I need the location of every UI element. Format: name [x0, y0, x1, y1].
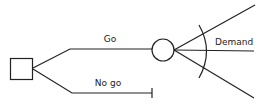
decision-node-square	[11, 59, 33, 80]
chance-node-circle	[152, 39, 174, 61]
demand-outcome-low-line	[174, 50, 254, 98]
demand-outcome-medium-line	[174, 50, 254, 51]
no-go-branch-label: No go	[95, 78, 122, 88]
demand-label: Demand	[215, 37, 253, 47]
go-branch-line	[33, 49, 152, 68]
decision-tree-diagram: Go No go Demand	[0, 0, 263, 107]
go-branch-label: Go	[104, 34, 117, 44]
no-go-branch-line	[33, 69, 152, 93]
